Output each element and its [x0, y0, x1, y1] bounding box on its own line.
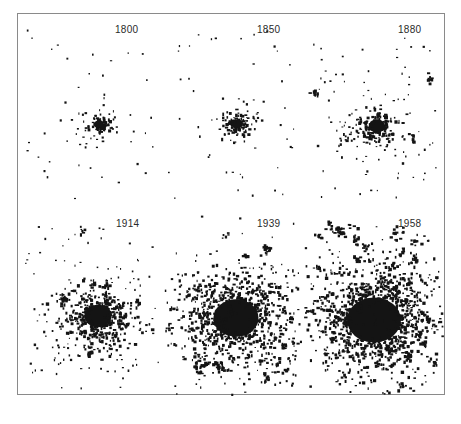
- settlement-dot-map: [302, 206, 444, 396]
- settlement-dot-map: [302, 14, 444, 204]
- urban-growth-figure: 1800 1850 1880 1914 1939 1958: [17, 13, 445, 395]
- year-label: 1914: [116, 218, 139, 229]
- year-label: 1958: [398, 218, 421, 229]
- settlement-dot-map: [160, 206, 302, 396]
- year-label: 1939: [257, 218, 280, 229]
- map-panel-1958: 1958: [302, 206, 444, 396]
- map-panel-1914: 1914: [18, 206, 160, 396]
- map-panel-1880: 1880: [302, 14, 444, 204]
- map-panel-1939: 1939: [160, 206, 302, 396]
- map-panel-1800: 1800: [18, 14, 160, 204]
- settlement-dot-map: [18, 14, 160, 204]
- settlement-dot-map: [160, 14, 302, 204]
- year-label: 1800: [115, 24, 138, 35]
- settlement-dot-map: [18, 206, 160, 396]
- map-panel-1850: 1850: [160, 14, 302, 204]
- year-label: 1850: [257, 24, 280, 35]
- year-label: 1880: [398, 24, 421, 35]
